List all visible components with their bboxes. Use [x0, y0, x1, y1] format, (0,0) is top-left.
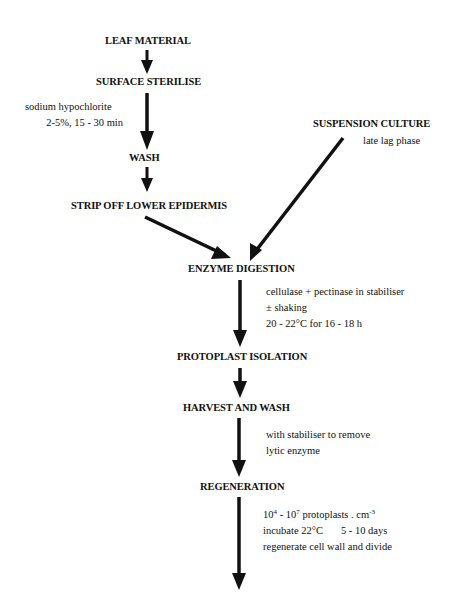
- note-harvest-line1: with stabiliser to remove: [266, 427, 370, 443]
- note-digestion-line1: cellulase + pectinase in stabiliser: [266, 284, 404, 300]
- arrow-regeneration-out: [232, 497, 246, 590]
- note-digestion-line3: 20 - 22°C for 16 - 18 h: [266, 316, 404, 332]
- node-strip-off-lower-epidermis: STRIP OFF LOWER EPIDERMIS: [71, 200, 227, 211]
- note-digestion-line2: ± shaking: [266, 300, 404, 316]
- note-regeneration-incubate: incubate 22°C5 - 10 days: [263, 523, 392, 539]
- note-digestion: cellulase + pectinase in stabiliser ± sh…: [266, 284, 404, 332]
- arrow-sterilise-to-wash: [140, 93, 154, 150]
- node-leaf-material: LEAF MATERIAL: [105, 35, 191, 46]
- note-suspension: late lag phase: [363, 133, 420, 149]
- arrow-harvest-to-regeneration: [232, 418, 246, 477]
- node-enzyme-digestion: ENZYME DIGESTION: [188, 263, 295, 274]
- note-sterilise-line2: 2-5%, 15 - 30 min: [25, 115, 123, 131]
- node-wash: WASH: [129, 152, 160, 163]
- arrow-strip-to-digestion: [145, 217, 231, 259]
- note-regeneration-outcome: regenerate cell wall and divide: [263, 539, 392, 555]
- note-harvest-line2: lytic enzyme: [266, 443, 370, 459]
- density-unit-exp: -3: [369, 508, 375, 516]
- node-surface-sterilise: SURFACE STERILISE: [96, 76, 201, 87]
- node-harvest-and-wash: HARVEST AND WASH: [183, 402, 290, 413]
- density-base-b: - 10: [277, 509, 296, 520]
- arrow-suspension-to-digestion: [250, 138, 343, 261]
- incubate-days: 5 - 10 days: [341, 525, 387, 536]
- node-regeneration: REGENERATION: [200, 481, 284, 492]
- note-harvest: with stabiliser to remove lytic enzyme: [266, 427, 370, 459]
- note-sterilise: sodium hypochlorite 2-5%, 15 - 30 min: [25, 99, 123, 131]
- arrow-wash-to-strip: [141, 167, 153, 192]
- note-regeneration: 104 - 107 protoplasts . cm-3 incubate 22…: [263, 507, 392, 555]
- node-protoplast-isolation: PROTOPLAST ISOLATION: [177, 351, 307, 362]
- note-sterilise-line1: sodium hypochlorite: [25, 99, 123, 115]
- arrow-isolation-to-harvest: [233, 368, 247, 398]
- node-suspension-culture: SUSPENSION CULTURE: [313, 118, 430, 129]
- incubate-temp: incubate 22°C: [263, 525, 323, 536]
- arrow-digestion-to-isolation: [233, 280, 247, 347]
- note-regeneration-density: 104 - 107 protoplasts . cm-3: [263, 507, 392, 523]
- density-base-a: 10: [263, 509, 274, 520]
- density-unit: protoplasts . cm: [300, 509, 369, 520]
- arrow-leaf-to-sterilise: [141, 50, 153, 74]
